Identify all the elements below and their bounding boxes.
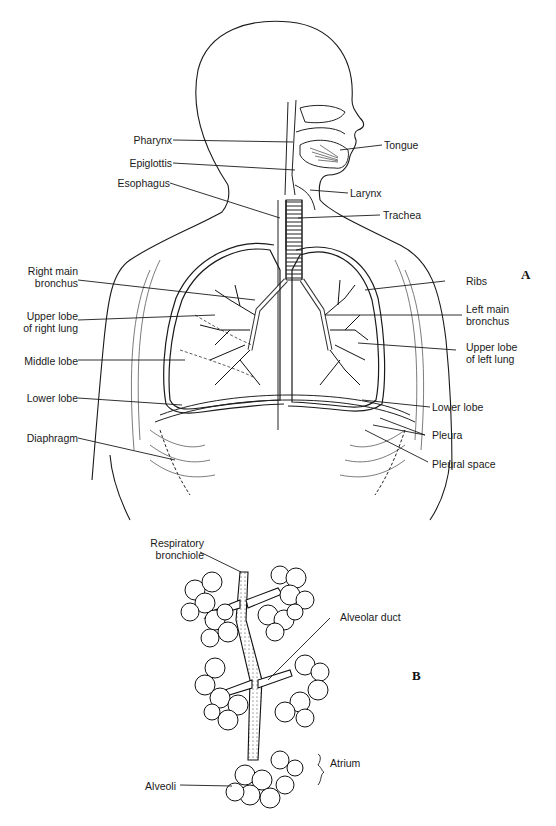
label-alveoli: Alveoli (145, 780, 176, 792)
label-epiglottis: Epiglottis (129, 157, 172, 169)
alveolar-cluster-upper-right (258, 566, 314, 641)
label-atrium: Atrium (330, 757, 360, 769)
lungs (164, 243, 385, 413)
tongue-shading (310, 145, 338, 162)
alveolar-cluster-middle-left (195, 658, 248, 730)
label-upper-lobe-right-line2: of right lung (23, 322, 78, 334)
label-pharynx: Pharynx (133, 134, 172, 146)
label-left-main-bronchus-line2: bronchus (466, 315, 509, 327)
label-right-main-bronchus-line2: bronchus (35, 277, 78, 289)
panel-letter-b: B (412, 668, 421, 684)
label-right-main-bronchus-line1: Right main (28, 265, 78, 277)
label-respiratory-bronchiole-line2: bronchiole (156, 549, 204, 561)
label-pleural-space: Pleural space (432, 458, 496, 470)
panel-letter-a: A (521, 267, 530, 283)
label-lower-lobe-right: Lower lobe (27, 392, 78, 404)
label-left-main-bronchus-line1: Left main (466, 303, 509, 315)
label-larynx: Larynx (350, 187, 382, 199)
label-diaphragm: Diaphragm (27, 432, 78, 444)
label-alveolar-duct: Alveolar duct (340, 611, 401, 623)
respiratory-system-diagram: Pharynx Epiglottis Esophagus Right main … (0, 0, 556, 826)
label-lower-lobe-left: Lower lobe (432, 401, 483, 413)
atrium-brace (318, 754, 324, 785)
label-ribs: Ribs (466, 275, 487, 287)
trachea (250, 200, 330, 350)
label-pleura: Pleura (432, 429, 462, 441)
alveolar-cluster-upper-left (181, 572, 238, 647)
label-respiratory-bronchiole-line1: Respiratory (150, 537, 204, 549)
label-trachea: Trachea (383, 209, 421, 221)
head-airway (285, 100, 348, 210)
alveolar-cluster-middle-right (275, 655, 329, 727)
bronchial-tree (200, 280, 368, 385)
label-middle-lobe: Middle lobe (24, 355, 78, 367)
label-upper-lobe-left-line1: Upper lobe (466, 341, 517, 353)
label-tongue: Tongue (384, 139, 418, 151)
alveolar-cluster-bottom (226, 751, 303, 808)
body-outline (92, 21, 452, 520)
label-upper-lobe-right-line1: Upper lobe (27, 310, 78, 322)
label-esophagus: Esophagus (117, 177, 170, 189)
anatomy-illustration (0, 0, 556, 826)
label-upper-lobe-left-line2: of left lung (466, 353, 514, 365)
